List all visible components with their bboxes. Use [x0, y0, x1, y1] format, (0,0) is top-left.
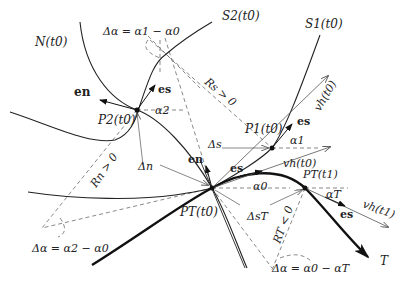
point-p2 — [135, 108, 140, 113]
label-eq-bottom: Δα = α0 − αT — [271, 262, 351, 275]
label-en-p2: en — [74, 85, 91, 99]
point-pt0 — [210, 186, 215, 191]
label-es-p1: es — [297, 115, 310, 128]
label-rs: Rs > 0 — [201, 75, 239, 109]
streamline-lower — [28, 188, 212, 198]
rn-radius-line — [42, 110, 137, 228]
label-rt: RT < 0 — [270, 204, 296, 246]
label-p2: P2(t0) — [97, 113, 136, 127]
label-pt0: PT(t0) — [179, 205, 218, 219]
kinematics-diagram: N(t0) Δα = α1 − α0 S2(t0) S1(t0) en es α… — [0, 0, 400, 287]
label-es-pt: es — [230, 162, 243, 175]
normal-curve-n — [80, 22, 247, 268]
label-alpha1: α1 — [290, 134, 304, 147]
label-s1: S1(t0) — [305, 17, 343, 31]
label-alpha2: α2 — [155, 104, 169, 117]
label-vh-pt1: vh(t1) — [361, 198, 397, 222]
label-es-p2: es — [158, 83, 171, 96]
label-delta-s: Δs — [207, 138, 222, 151]
label-pt1: PT(t1) — [302, 168, 338, 181]
label-es-pt1: es — [340, 208, 353, 221]
label-trajectory: T — [380, 254, 389, 268]
label-rn: Rn > 0 — [87, 151, 120, 191]
label-delta-n: Δn — [137, 160, 153, 173]
diagram-canvas: N(t0) Δα = α1 − α0 S2(t0) S1(t0) en es α… — [0, 0, 400, 287]
label-delta-sT: ΔsT — [246, 210, 270, 223]
label-s2: S2(t0) — [222, 9, 260, 23]
label-normal-curve: N(t0) — [34, 35, 68, 49]
label-vh-p1: vh(t0) — [311, 78, 339, 113]
en-vector-p2 — [100, 100, 137, 110]
label-en-pt: en — [188, 153, 203, 166]
point-p1 — [270, 146, 275, 151]
point-pt1 — [303, 186, 308, 191]
label-eq-left: Δα = α2 − α0 — [31, 242, 109, 255]
label-alpha0: α0 — [253, 180, 267, 193]
label-p1: P1(t0) — [244, 122, 283, 136]
label-eq-top: Δα = α1 − α0 — [102, 25, 180, 38]
label-alphaT: αT — [326, 188, 342, 201]
